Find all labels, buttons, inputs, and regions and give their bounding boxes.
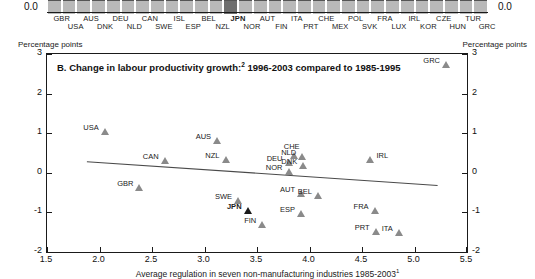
plot-area: B. Change in labour productivity growth:…	[46, 53, 468, 253]
x-axis-tick	[415, 247, 416, 252]
x-axis-tick	[100, 247, 101, 252]
bar-country-label: PRT	[296, 22, 325, 31]
x-axis-label: 2.5	[138, 254, 164, 264]
bar-country-label: NLD	[120, 22, 149, 31]
x-axis-label: 3.0	[191, 254, 217, 264]
y-axis-label: 2	[20, 87, 42, 97]
triangle-marker-icon	[298, 153, 306, 160]
scatter-point-label: NLD	[281, 148, 296, 157]
bar-country-label: ESP	[179, 22, 208, 31]
x-axis-label: 4.0	[296, 254, 322, 264]
triangle-marker-icon	[371, 207, 379, 214]
triangle-marker-icon	[101, 128, 109, 135]
x-axis-label: 5.0	[401, 254, 427, 264]
x-axis-label: 4.5	[348, 254, 374, 264]
x-axis-label: 3.5	[243, 254, 269, 264]
scatter-point-label: USA	[83, 123, 98, 132]
x-axis-tick	[310, 247, 311, 252]
scatter-point-label: GBR	[117, 179, 133, 188]
top-bar-strip: 0.0 0.0 GBRAUSDEUCANISLBELJPNAUTITACHEPO…	[0, 0, 535, 32]
scatter-point-label: FIN	[244, 216, 256, 225]
scatter-point-label: FRA	[354, 202, 369, 211]
y-axis-label: 0	[472, 166, 494, 176]
x-axis-title: Average regulation in seven non-manufact…	[0, 268, 535, 279]
y-axis-tick	[47, 94, 52, 95]
scatter-point-label: ESP	[280, 205, 295, 214]
trendline	[47, 54, 467, 252]
x-axis-label: 2.0	[86, 254, 112, 264]
scatter-point-label: AUS	[196, 132, 211, 141]
scatter-point-label: ITA	[382, 224, 393, 233]
y-axis-label: 0	[20, 166, 42, 176]
x-axis-tick	[257, 247, 258, 252]
plot-title-main: B. Change in labour productivity growth:	[57, 62, 241, 73]
x-axis-label: 5.5	[453, 254, 479, 264]
triangle-marker-icon	[372, 228, 380, 235]
y-axis-tick	[47, 212, 52, 213]
scatter-point-label: SWE	[215, 192, 232, 201]
y-axis-tick	[462, 94, 467, 95]
triangle-marker-icon	[285, 168, 293, 175]
bar-country-label: NOR	[237, 22, 266, 31]
bar-country-labels-bottom: USADNKNLDSWEESPNZLNORFINPRTMEXSVKLUXKORH…	[61, 22, 502, 31]
x-axis-title-text: Average regulation in seven non-manufact…	[136, 269, 396, 279]
x-axis-tick	[47, 247, 48, 252]
triangle-marker-icon	[299, 162, 307, 169]
bar-country-label: NZL	[208, 22, 237, 31]
triangle-marker-icon	[213, 137, 221, 144]
y-axis-tick	[462, 212, 467, 213]
bar-country-label: DNK	[90, 22, 119, 31]
y-axis-tick	[462, 54, 467, 55]
x-axis-tick	[466, 247, 467, 252]
triangle-marker-icon	[244, 207, 252, 214]
y-axis-tick	[47, 54, 52, 55]
bar-axis-label-left: 0.0	[24, 1, 38, 12]
triangle-marker-icon	[222, 156, 230, 163]
x-axis-tick	[362, 247, 363, 252]
scatter-point-label: BEL	[298, 187, 312, 196]
triangle-marker-icon	[135, 184, 143, 191]
scatter-point-label: JPN	[227, 202, 242, 211]
scatter-point-label: DNK	[281, 157, 297, 166]
scatter-point-label: PRT	[355, 223, 370, 232]
bar-country-label: HUN	[443, 22, 472, 31]
y-axis-tick	[47, 133, 52, 134]
y-axis-tick	[47, 252, 52, 253]
plot-title: B. Change in labour productivity growth:…	[57, 61, 401, 73]
x-axis-label: 1.5	[33, 254, 59, 264]
bar-country-label: KOR	[414, 22, 443, 31]
triangle-marker-icon	[442, 61, 450, 68]
y-axis-label: 3	[20, 47, 42, 57]
y-axis-tick	[462, 252, 467, 253]
triangle-marker-icon	[395, 229, 403, 236]
scatter-point-label: DEU	[267, 154, 283, 163]
bar-country-label: MEX	[326, 22, 355, 31]
scatter-point-label: AUT	[280, 185, 295, 194]
y-axis-tick	[47, 173, 52, 174]
bar-country-label: SVK	[355, 22, 384, 31]
scatter-point-label: NZL	[205, 151, 219, 160]
x-axis-tick	[205, 247, 206, 252]
x-axis-title-footnote: 1	[396, 268, 399, 274]
bar-country-label: GRC	[472, 22, 501, 31]
y-axis-label: 1	[472, 126, 494, 136]
triangle-marker-icon	[314, 192, 322, 199]
y-axis-label: 3	[472, 47, 494, 57]
y-axis-tick	[462, 173, 467, 174]
bar-country-label: LUX	[384, 22, 413, 31]
scatter-point-label: NOR	[266, 163, 283, 172]
bar-baseline	[47, 12, 488, 13]
scatter-point-label: IRL	[376, 151, 388, 160]
triangle-marker-icon	[297, 210, 305, 217]
y-axis-label: 2	[472, 87, 494, 97]
scatter-point-label: CAN	[143, 152, 159, 161]
bar-country-label: USA	[61, 22, 90, 31]
bar-axis-label-right: 0.0	[498, 1, 512, 12]
y-axis-label: -1	[472, 205, 494, 215]
scatter-point-label: GRC	[423, 56, 440, 65]
bar-country-label: FIN	[267, 22, 296, 31]
triangle-marker-icon	[258, 221, 266, 228]
plot-title-rest: 1996-2003 compared to 1985-1995	[245, 62, 401, 73]
bar-country-label: SWE	[149, 22, 178, 31]
